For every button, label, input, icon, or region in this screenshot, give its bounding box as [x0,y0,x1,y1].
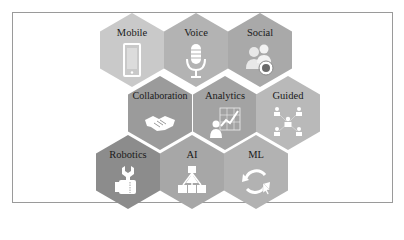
analytics-chart-icon [208,106,242,140]
hex-label: Robotics [96,149,160,160]
hex-label: Analytics [193,90,257,101]
hex-label: Guided [256,90,320,101]
hex-label: Voice [164,27,228,38]
network-people-icon [271,106,305,140]
cycle-arrows-icon [239,165,273,199]
hex-label: Social [228,27,292,38]
hex-label: ML [224,149,288,160]
microphone-icon [179,43,213,77]
hierarchy-icon [175,165,209,199]
hex-label: Mobile [100,27,164,38]
mobile-phone-icon [115,43,149,77]
wrench-hand-icon [111,165,145,199]
social-users-icon [243,43,277,77]
hex-label: AI [160,149,224,160]
handshake-icon [143,106,177,140]
hex-label: Collaboration [128,90,192,101]
